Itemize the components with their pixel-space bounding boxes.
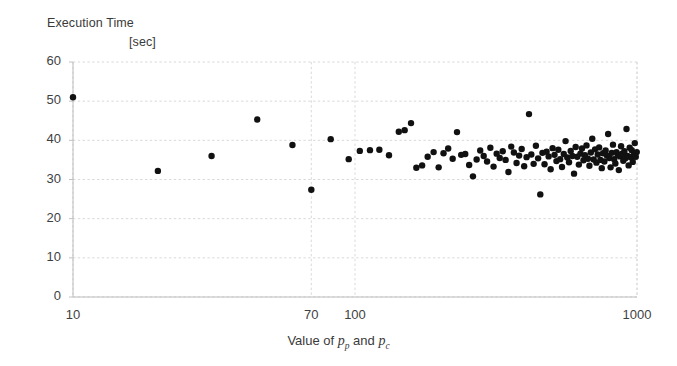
y-tick-label: 0 — [31, 288, 61, 303]
data-point — [449, 156, 455, 162]
y-tick-label: 40 — [31, 131, 61, 146]
data-point — [419, 162, 425, 168]
x-axis-variable-pc: pc — [378, 333, 389, 348]
x-tick-label: 1000 — [607, 307, 667, 322]
data-point — [589, 136, 595, 142]
data-point — [430, 149, 436, 155]
data-point — [530, 161, 536, 167]
data-point — [612, 160, 618, 166]
gridlines-group — [73, 62, 637, 297]
data-point — [545, 153, 551, 159]
data-point — [513, 160, 519, 166]
data-point — [481, 153, 487, 159]
data-point — [502, 157, 508, 163]
data-point — [610, 141, 616, 147]
data-point — [208, 153, 214, 159]
data-point — [595, 151, 601, 157]
data-point — [623, 126, 629, 132]
data-point — [408, 120, 414, 126]
data-point — [376, 147, 382, 153]
data-point — [572, 144, 578, 150]
data-point — [541, 161, 547, 167]
data-point — [466, 162, 472, 168]
data-point — [596, 144, 602, 150]
x-axis-label: Value of pp and pc — [0, 333, 677, 351]
data-point — [566, 159, 572, 165]
data-point — [605, 131, 611, 137]
data-point — [505, 169, 511, 175]
data-point — [487, 145, 493, 151]
data-point — [435, 164, 441, 170]
data-point — [308, 186, 314, 192]
data-point — [559, 164, 565, 170]
data-point — [583, 142, 589, 148]
data-point — [484, 158, 490, 164]
data-point — [254, 116, 260, 122]
data-point — [473, 156, 479, 162]
data-point — [490, 163, 496, 169]
data-point — [386, 152, 392, 158]
data-point — [396, 129, 402, 135]
data-point — [454, 129, 460, 135]
data-point — [289, 142, 295, 148]
data-point — [533, 143, 539, 149]
data-point — [547, 166, 553, 172]
data-point — [424, 154, 430, 160]
x-axis-label-conjunction: and — [349, 333, 378, 348]
data-point — [521, 163, 527, 169]
data-point — [634, 149, 640, 155]
data-point — [599, 165, 605, 171]
data-point — [535, 155, 541, 161]
data-point — [555, 147, 561, 153]
data-point — [477, 147, 483, 153]
y-tick-label: 50 — [31, 92, 61, 107]
data-point — [346, 156, 352, 162]
y-tick-label: 20 — [31, 210, 61, 225]
data-point — [497, 155, 503, 161]
data-point — [328, 136, 334, 142]
data-point — [462, 151, 468, 157]
data-point — [367, 147, 373, 153]
data-point — [440, 150, 446, 156]
data-point — [586, 163, 592, 169]
data-point — [526, 111, 532, 117]
scatter-plot-figure: Execution Time [sec] 0102030405060 10701… — [0, 0, 677, 366]
data-point — [70, 94, 76, 100]
data-point — [155, 168, 161, 174]
data-point — [537, 191, 543, 197]
x-axis-variable-pp: pp — [338, 333, 350, 348]
data-point — [445, 145, 451, 151]
data-point — [616, 167, 622, 173]
data-point — [528, 151, 534, 157]
y-tick-label: 60 — [31, 53, 61, 68]
data-point — [357, 148, 363, 154]
data-point — [470, 173, 476, 179]
data-point — [585, 156, 591, 162]
y-tick-label: 30 — [31, 171, 61, 186]
data-point — [401, 127, 407, 133]
data-point — [413, 165, 419, 171]
x-tick-label: 10 — [43, 307, 103, 322]
data-point — [516, 152, 522, 158]
y-tick-label: 10 — [31, 249, 61, 264]
data-point — [562, 138, 568, 144]
data-point — [508, 143, 514, 149]
data-point — [632, 140, 638, 146]
data-point — [500, 148, 506, 154]
data-point — [551, 152, 557, 158]
data-point — [549, 145, 555, 151]
x-tick-label: 100 — [325, 307, 385, 322]
x-axis-label-prefix: Value of — [287, 333, 337, 348]
data-point — [571, 170, 577, 176]
data-point — [518, 146, 524, 152]
